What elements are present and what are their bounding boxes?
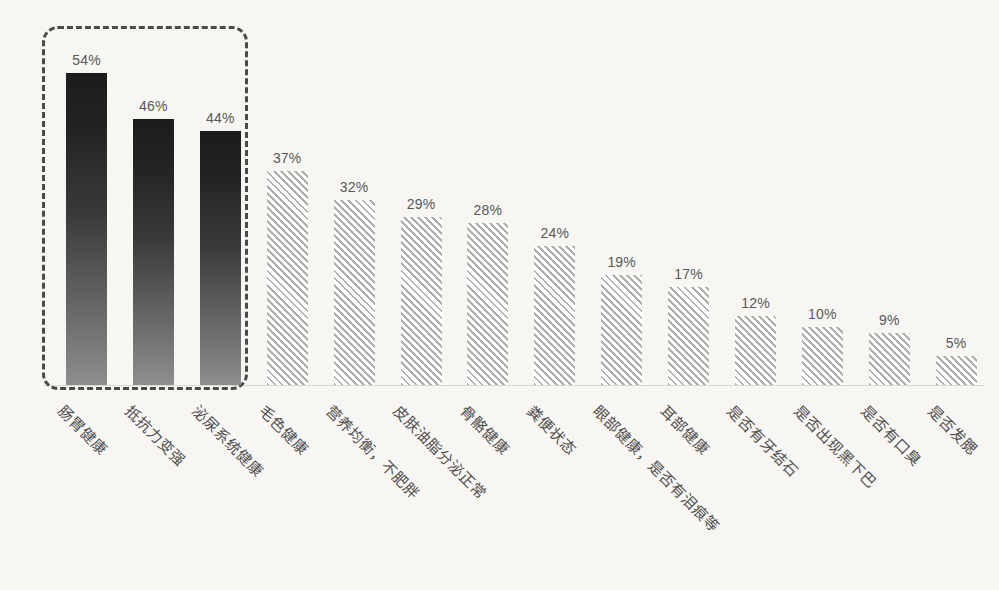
bar-value-label-7: 28% bbox=[474, 202, 503, 218]
bar-value-label-12: 10% bbox=[808, 306, 837, 322]
bar-14[interactable]: 5% bbox=[936, 0, 977, 385]
bar-6[interactable]: 29% bbox=[401, 0, 442, 385]
bar-2[interactable]: 46% bbox=[133, 0, 174, 385]
bar-value-label-13: 9% bbox=[879, 312, 900, 328]
category-label-9: 眼部健康，是否有泪痕等 bbox=[590, 400, 725, 535]
bar-value-label-10: 17% bbox=[674, 266, 703, 282]
bar-rect-13[interactable] bbox=[869, 333, 910, 385]
bar-value-label-14: 5% bbox=[946, 335, 967, 351]
bar-value-label-5: 32% bbox=[340, 179, 369, 195]
bar-rect-2[interactable] bbox=[133, 119, 174, 385]
bar-value-label-2: 46% bbox=[139, 98, 168, 114]
bar-value-label-6: 29% bbox=[407, 196, 436, 212]
bar-8[interactable]: 24% bbox=[534, 0, 575, 385]
bar-7[interactable]: 28% bbox=[467, 0, 508, 385]
category-label-2: 抵抗力变强 bbox=[121, 400, 191, 470]
bar-rect-4[interactable] bbox=[267, 171, 308, 385]
bar-rect-7[interactable] bbox=[467, 223, 508, 385]
bar-1[interactable]: 54% bbox=[66, 0, 107, 385]
category-axis-labels: 肠胃健康抵抗力变强泌尿系统健康毛色健康营养均衡，不肥胖皮肤油脂分泌正常骨骼健康粪… bbox=[0, 386, 999, 590]
category-label-7: 骨骼健康 bbox=[456, 400, 515, 459]
bar-10[interactable]: 17% bbox=[668, 0, 709, 385]
category-label-1: 肠胃健康 bbox=[54, 400, 113, 459]
bar-rect-9[interactable] bbox=[601, 275, 642, 385]
bar-rect-10[interactable] bbox=[668, 287, 709, 385]
bar-rect-6[interactable] bbox=[401, 217, 442, 385]
bar-13[interactable]: 9% bbox=[869, 0, 910, 385]
bar-4[interactable]: 37% bbox=[267, 0, 308, 385]
bar-5[interactable]: 32% bbox=[334, 0, 375, 385]
bar-rect-11[interactable] bbox=[735, 316, 776, 385]
category-label-10: 耳部健康 bbox=[657, 400, 716, 459]
bar-chart: 54%46%44%37%32%29%28%24%19%17%12%10%9%5%… bbox=[0, 0, 999, 590]
bar-value-label-1: 54% bbox=[72, 52, 101, 68]
bar-11[interactable]: 12% bbox=[735, 0, 776, 385]
category-label-4: 毛色健康 bbox=[255, 400, 314, 459]
bar-rect-14[interactable] bbox=[936, 356, 977, 385]
bar-value-label-8: 24% bbox=[540, 225, 569, 241]
bar-rect-8[interactable] bbox=[534, 246, 575, 385]
category-label-13: 是否有口臭 bbox=[857, 400, 927, 470]
plot-area: 54%46%44%37%32%29%28%24%19%17%12%10%9%5% bbox=[0, 0, 999, 386]
bar-9[interactable]: 19% bbox=[601, 0, 642, 385]
bar-value-label-4: 37% bbox=[273, 150, 302, 166]
bar-value-label-9: 19% bbox=[607, 254, 636, 270]
bar-rect-3[interactable] bbox=[200, 131, 241, 385]
bar-value-label-3: 44% bbox=[206, 110, 235, 126]
category-label-14: 是否发腮 bbox=[924, 400, 983, 459]
bar-value-label-11: 12% bbox=[741, 295, 770, 311]
category-label-8: 粪便状态 bbox=[523, 400, 582, 459]
bar-rect-12[interactable] bbox=[802, 327, 843, 385]
bar-12[interactable]: 10% bbox=[802, 0, 843, 385]
bar-rect-5[interactable] bbox=[334, 200, 375, 385]
bar-3[interactable]: 44% bbox=[200, 0, 241, 385]
bar-rect-1[interactable] bbox=[66, 73, 107, 385]
